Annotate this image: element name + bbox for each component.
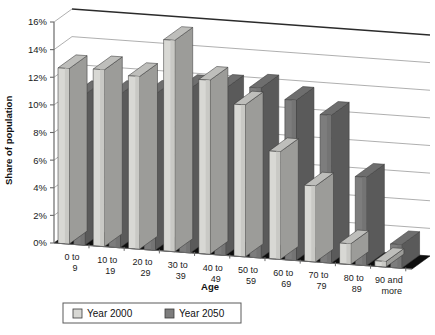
depth-connector bbox=[54, 9, 72, 22]
bar-front-shade bbox=[382, 261, 386, 267]
bar-side-face bbox=[104, 57, 122, 247]
bar-side-face bbox=[139, 64, 157, 250]
y-axis-tick-label: 6% bbox=[33, 155, 47, 166]
bar-2000 bbox=[93, 56, 122, 247]
x-axis-tick-label: 80 to bbox=[344, 273, 364, 283]
bar-front-shade bbox=[135, 76, 139, 249]
y-axis-tick-label: 0% bbox=[33, 237, 47, 248]
bar-2000 bbox=[58, 55, 87, 244]
x-axis-tick-label: 0 to bbox=[65, 252, 80, 262]
bar-front-shade bbox=[170, 40, 174, 252]
y-axis-tick-label: 4% bbox=[33, 182, 47, 193]
bar-2000 bbox=[269, 138, 298, 260]
x-axis-tick-label: 70 to bbox=[308, 270, 328, 280]
y-axis-tick-label: 14% bbox=[28, 44, 48, 55]
bar-side-face bbox=[245, 92, 263, 257]
y-axis-tick-label: 8% bbox=[33, 127, 47, 138]
bar-side-face bbox=[315, 173, 333, 262]
bars-group bbox=[58, 27, 420, 269]
bar-front-shade bbox=[206, 80, 210, 254]
gridline bbox=[72, 37, 430, 63]
bar-2000 bbox=[304, 172, 333, 262]
bar-side-face bbox=[210, 67, 228, 254]
x-axis-tick-label: 50 to bbox=[238, 265, 258, 275]
y-axis-tick-label: 16% bbox=[28, 16, 48, 27]
x-axis-title: Age bbox=[201, 281, 219, 292]
x-axis-tick-label: 79 bbox=[316, 281, 326, 291]
x-axis-tick-label: 9 bbox=[73, 263, 78, 273]
x-axis-tick-label: 60 to bbox=[273, 268, 293, 278]
bar-2000 bbox=[164, 27, 193, 252]
legend-item-2000[interactable]: Year 2000 bbox=[73, 308, 133, 319]
bar-front-shade bbox=[346, 244, 350, 265]
depth-connector bbox=[54, 37, 72, 50]
legend-label: Year 2000 bbox=[87, 308, 133, 319]
bar-2000 bbox=[234, 91, 263, 257]
bar-side-face bbox=[69, 56, 87, 244]
x-axis-tick-label: 39 bbox=[176, 271, 186, 281]
x-axis-tick-label: 90 and bbox=[375, 275, 403, 285]
x-axis-tick-label: 29 bbox=[140, 268, 150, 278]
x-axis-tick-label: 10 to bbox=[97, 255, 117, 265]
bar-2000 bbox=[128, 63, 157, 249]
legend-item-2050[interactable]: Year 2050 bbox=[165, 308, 225, 319]
x-axis-tick-label: 19 bbox=[105, 266, 115, 276]
x-axis-tick-label: 20 to bbox=[132, 257, 152, 267]
bar-front-shade bbox=[100, 70, 104, 247]
x-axis-tick-label: 69 bbox=[281, 279, 291, 289]
bar-front-shade bbox=[241, 105, 245, 257]
light-swatch-icon bbox=[73, 309, 82, 318]
x-axis-tick-label: 30 to bbox=[168, 260, 188, 270]
bar-2000 bbox=[199, 66, 228, 254]
x-axis-tick-label: 40 to bbox=[203, 263, 223, 273]
bar-side-face bbox=[280, 139, 298, 260]
bar-side-face bbox=[366, 164, 384, 265]
x-axis-tick-label: 89 bbox=[352, 284, 362, 294]
gridline bbox=[72, 9, 430, 35]
y-axis: 0%2%4%6%8%10%12%14%16% bbox=[28, 16, 54, 248]
y-axis-tick-label: 2% bbox=[33, 210, 47, 221]
bar-side-face bbox=[175, 27, 193, 251]
y-axis-tick-label: 12% bbox=[28, 72, 48, 83]
bar-front-shade bbox=[276, 151, 280, 259]
bar-front-shade bbox=[311, 186, 315, 262]
bar-chart: 0%2%4%6%8%10%12%14%16%0 to910 to1920 to2… bbox=[0, 0, 435, 335]
y-axis-tick-label: 10% bbox=[28, 99, 48, 110]
legend-label: Year 2050 bbox=[179, 308, 225, 319]
x-axis-tick-label: 59 bbox=[246, 276, 256, 286]
dark-swatch-icon bbox=[165, 309, 174, 318]
y-axis-title: Share of population bbox=[3, 96, 14, 185]
bar-front-shade bbox=[65, 68, 69, 244]
chart-canvas: 0%2%4%6%8%10%12%14%16%0 to910 to1920 to2… bbox=[0, 0, 435, 335]
x-axis-tick-label: more bbox=[382, 286, 403, 296]
chart-legend: Year 2000Year 2050 bbox=[63, 303, 241, 323]
